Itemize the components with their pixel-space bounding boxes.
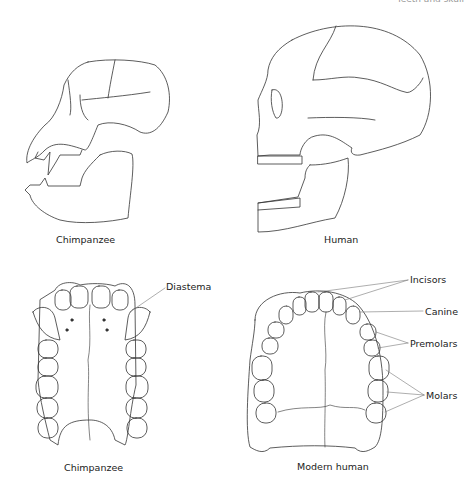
chimp-palate-drawing — [33, 283, 165, 445]
chimp-incisors — [55, 286, 128, 310]
label-diastema: Diastema — [166, 281, 211, 292]
label-canine: Canine — [425, 306, 458, 317]
caption-human-skull: Human — [324, 234, 358, 245]
human-premolars — [262, 322, 380, 356]
label-molars: Molars — [426, 390, 457, 401]
label-incisors: Incisors — [410, 274, 446, 285]
chimp-skull-drawing — [25, 60, 169, 223]
label-premolars: Premolars — [410, 338, 458, 349]
human-incisors — [293, 292, 346, 315]
human-skull-drawing — [257, 26, 431, 232]
diastema-leader — [130, 288, 165, 312]
caption-chimp-palate: Chimpanzee — [64, 462, 123, 473]
caption-chimp-skull: Chimpanzee — [56, 234, 115, 245]
caption-human-palate: Modern human — [297, 461, 369, 472]
human-molars — [252, 356, 389, 423]
human-palate-drawing — [247, 280, 424, 452]
